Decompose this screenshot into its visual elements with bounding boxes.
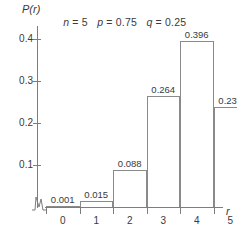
y-tick-label: 0.4 <box>7 33 33 44</box>
title-p-value: = 0.75 <box>103 16 137 28</box>
bar-value-label: 0.088 <box>114 158 146 169</box>
y-axis-line <box>37 26 38 208</box>
bar <box>214 107 238 207</box>
x-tick-label: 3 <box>153 215 173 226</box>
y-tick-label: 0.3 <box>7 75 33 86</box>
x-tick-label: 4 <box>187 215 207 226</box>
x-tick-label: 5 <box>220 215 237 226</box>
bar-value-label: 0.264 <box>147 84 179 95</box>
y-tick-mark <box>33 165 41 166</box>
y-tick-mark <box>33 81 41 82</box>
y-tick-label: 0.1 <box>7 159 33 170</box>
bar <box>46 206 80 208</box>
y-tick-mark <box>33 39 41 40</box>
x-tick-label: 2 <box>120 215 140 226</box>
binomial-distribution-chart: n = 5 p = 0.75 q = 0.25 P(r) r 0.10.20.3… <box>0 0 237 238</box>
bar <box>80 201 114 207</box>
bar-value-label: 0.001 <box>47 194 79 205</box>
x-axis-line <box>45 207 223 208</box>
bar-value-label: 0.396 <box>181 29 213 40</box>
y-tick-label: 0.2 <box>7 117 33 128</box>
y-tick-mark <box>33 123 41 124</box>
bar <box>113 170 147 207</box>
x-tick-mark <box>80 207 81 214</box>
x-tick-mark <box>180 207 181 214</box>
x-tick-mark <box>113 207 114 214</box>
bar <box>147 96 181 207</box>
x-tick-mark <box>147 207 148 214</box>
bar-value-label: 0.237 <box>214 95 237 106</box>
x-tick-mark <box>214 207 215 214</box>
x-tick-label: 0 <box>53 215 73 226</box>
title-n-value: = 5 <box>69 16 88 28</box>
bar-value-label: 0.015 <box>80 189 112 200</box>
y-axis-label: P(r) <box>22 3 40 15</box>
x-tick-label: 1 <box>86 215 106 226</box>
title-q-value: = 0.25 <box>152 16 186 28</box>
bar <box>180 41 214 207</box>
axis-break-zigzag-icon <box>31 193 47 211</box>
x-tick-mark <box>46 207 47 214</box>
